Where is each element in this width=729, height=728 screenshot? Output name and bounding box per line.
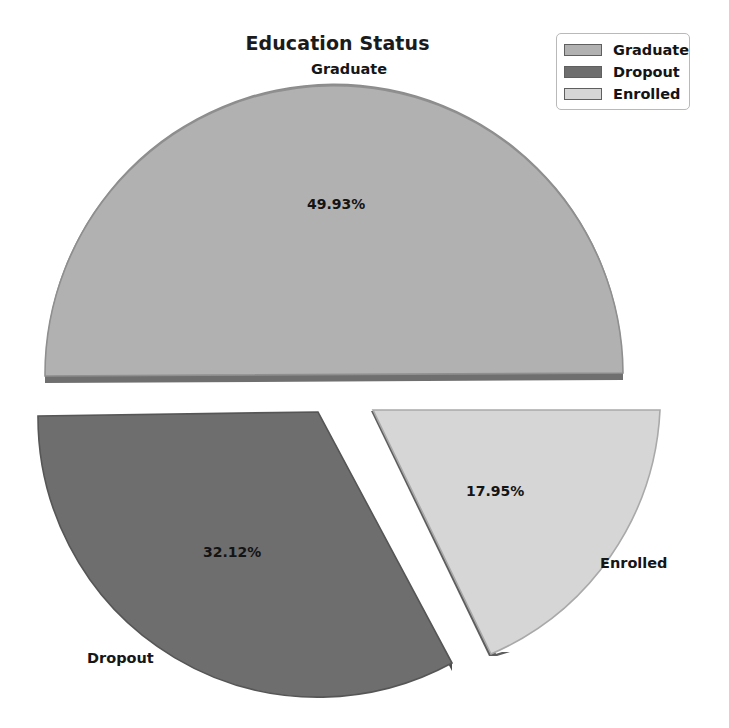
legend-swatch-enrolled-icon xyxy=(564,88,602,100)
slice-percent-enrolled: 17.95% xyxy=(466,483,524,499)
pie-slice-graduate[interactable] xyxy=(45,84,623,383)
legend-label-enrolled: Enrolled xyxy=(613,87,681,102)
legend-label-graduate: Graduate xyxy=(613,43,689,58)
slice-percent-graduate: 49.93% xyxy=(307,196,365,212)
slice-label-graduate: Graduate xyxy=(311,61,387,77)
legend-swatch-dropout-icon xyxy=(564,66,602,78)
legend-item-graduate[interactable]: Graduate xyxy=(564,39,682,61)
legend: Graduate Dropout Enrolled xyxy=(556,33,690,110)
legend-item-dropout[interactable]: Dropout xyxy=(564,61,682,83)
legend-swatch-graduate-icon xyxy=(564,44,602,56)
legend-label-dropout: Dropout xyxy=(613,65,680,80)
graduate-slice-face xyxy=(45,86,623,376)
chart-canvas: Education Status Graduate Dropout Enroll… xyxy=(0,0,729,728)
chart-title-text: Education Status xyxy=(245,32,429,54)
slice-label-dropout: Dropout xyxy=(87,650,154,666)
slice-label-enrolled: Enrolled xyxy=(600,555,668,571)
slice-percent-dropout: 32.12% xyxy=(203,544,261,560)
legend-item-enrolled[interactable]: Enrolled xyxy=(564,83,682,105)
